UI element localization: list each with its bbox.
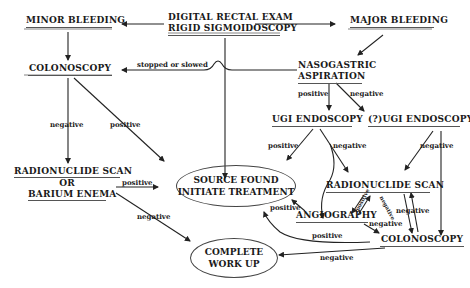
edge-label-angio-positive: positive <box>270 203 301 212</box>
edge-label-ugi-positive: positive <box>268 141 299 150</box>
node-source-found: SOURCE FOUND INITIATE TREATMENT <box>176 165 296 207</box>
node-ng-line1: NASOGASTRIC <box>298 60 362 71</box>
node-minor-bleeding: MINOR BLEEDING <box>26 15 112 28</box>
node-major-bleeding: MAJOR BLEEDING <box>350 15 434 28</box>
node-rn-left-line1: RADIONUCLIDE SCAN <box>14 166 120 178</box>
node-source-line1: SOURCE FOUND <box>194 174 279 186</box>
node-dre-line2: RIGID SIGMOIDOSCOPY <box>168 23 280 34</box>
edge-label-colonoscopy-right-positive: positive <box>312 231 343 240</box>
edge-label-colonoscopy-negative: negative <box>50 120 83 129</box>
node-q-ugi-endoscopy: (?)UGI ENDOSCOPY <box>368 114 460 127</box>
node-complete-line2: WORK UP <box>209 258 260 270</box>
node-q-ugi-endoscopy-label: (?)UGI ENDOSCOPY <box>368 114 460 125</box>
node-dre-line1: DIGITAL RECTAL EXAM <box>168 12 280 23</box>
node-ng-line2: ASPIRATION <box>298 71 362 82</box>
node-ugi-endoscopy-label: UGI ENDOSCOPY <box>272 114 352 125</box>
edge-label-colonoscopy-positive: positive <box>110 120 141 129</box>
node-colonoscopy-left: COLONOSCOPY <box>28 63 112 76</box>
node-digital-rectal-exam: DIGITAL RECTAL EXAM RIGID SIGMOIDOSCOPY <box>168 12 280 36</box>
node-nasogastric-aspiration: NASOGASTRIC ASPIRATION <box>298 60 362 84</box>
gi-bleeding-flowchart: MINOR BLEEDING DIGITAL RECTAL EXAM RIGID… <box>0 0 470 288</box>
node-complete-line1: COMPLETE <box>205 246 263 258</box>
edge-label-stopped-or-slowed: stopped or slowed <box>137 60 208 69</box>
edge-label-ng-negative: negative <box>350 89 383 98</box>
node-radionuclide-scan-right: RADIONUCLIDE SCAN <box>326 180 430 193</box>
node-minor-bleeding-label: MINOR BLEEDING <box>26 15 112 26</box>
node-rn-left-line3: BARIUM ENEMA <box>28 189 106 201</box>
edge-label-q-ugi-negative: negative <box>420 141 453 150</box>
node-colonoscopy-right-label: COLONOSCOPY <box>380 234 464 245</box>
edge-label-colonoscopy-right-negative: negative <box>320 253 353 262</box>
node-ugi-endoscopy: UGI ENDOSCOPY <box>272 114 352 127</box>
node-radionuclide-or-barium: RADIONUCLIDE SCAN OR BARIUM ENEMA <box>14 166 120 201</box>
edge-label-rn-left-positive: positive <box>122 178 153 187</box>
node-source-line2: INITIATE TREATMENT <box>178 186 295 198</box>
node-angiography: ANGIOGRAPHY <box>296 210 368 223</box>
node-angiography-label: ANGIOGRAPHY <box>296 210 368 221</box>
edge-label-rn-left-negative: negative <box>137 212 170 221</box>
node-complete-work-up: COMPLETE WORK UP <box>190 238 278 278</box>
node-rn-right-label: RADIONUCLIDE SCAN <box>326 180 430 191</box>
node-colonoscopy-left-label: COLONOSCOPY <box>28 63 112 74</box>
node-rn-left-line2: OR <box>14 178 120 189</box>
node-major-bleeding-label: MAJOR BLEEDING <box>350 15 434 26</box>
edge-label-ng-positive: positive <box>298 89 329 98</box>
edge-label-ugi-negative: negative <box>333 141 366 150</box>
edge-label-rn-colonoscopy-negative: negative <box>396 206 429 215</box>
edge-label-angio-negative: negative <box>369 219 402 228</box>
node-colonoscopy-right: COLONOSCOPY <box>380 234 464 247</box>
